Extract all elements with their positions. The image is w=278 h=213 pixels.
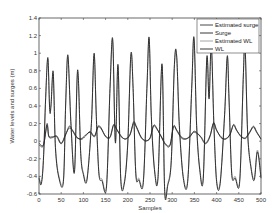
x-tick-label: 250 — [145, 197, 156, 203]
x-tick-label: 100 — [78, 197, 89, 203]
y-tick-label: -0.2 — [27, 156, 38, 162]
legend-entry: WL — [215, 46, 225, 52]
legend-entry: Estimated surge — [215, 22, 259, 28]
y-axis-label: Water levels and surges (m) — [9, 69, 15, 144]
y-tick-label: 0.6 — [29, 85, 38, 91]
x-tick-label: 0 — [37, 197, 41, 203]
x-tick-label: 400 — [212, 197, 223, 203]
x-axis-label: Samples — [138, 205, 161, 211]
y-tick-label: 1.4 — [29, 15, 38, 21]
legend: Estimated surgeSurgeEstimated WLWL — [197, 19, 259, 53]
x-tick-label: 350 — [189, 197, 200, 203]
series-layer — [39, 37, 261, 200]
y-tick-label: 0.4 — [29, 103, 38, 109]
legend-entry: Estimated WL — [215, 38, 253, 44]
y-tick-label: 1 — [34, 50, 38, 56]
x-tick-label: 150 — [101, 197, 112, 203]
series-wl — [39, 37, 261, 200]
y-tick-label: -0.4 — [27, 173, 38, 179]
x-tick-label: 450 — [234, 197, 245, 203]
x-tick-label: 500 — [256, 197, 267, 203]
x-tick-label: 300 — [167, 197, 178, 203]
y-tick-label: 0.2 — [29, 121, 38, 127]
legend-entry: Surge — [215, 30, 232, 36]
y-tick-label: -0.6 — [27, 191, 38, 197]
y-tick-label: 1.2 — [29, 33, 38, 39]
y-tick-label: 0.8 — [29, 68, 38, 74]
x-tick-label: 50 — [58, 197, 65, 203]
x-tick-label: 200 — [123, 197, 134, 203]
y-tick-label: 0 — [34, 138, 38, 144]
line-chart: 050100150200250300350400450500-0.6-0.4-0… — [0, 0, 278, 213]
